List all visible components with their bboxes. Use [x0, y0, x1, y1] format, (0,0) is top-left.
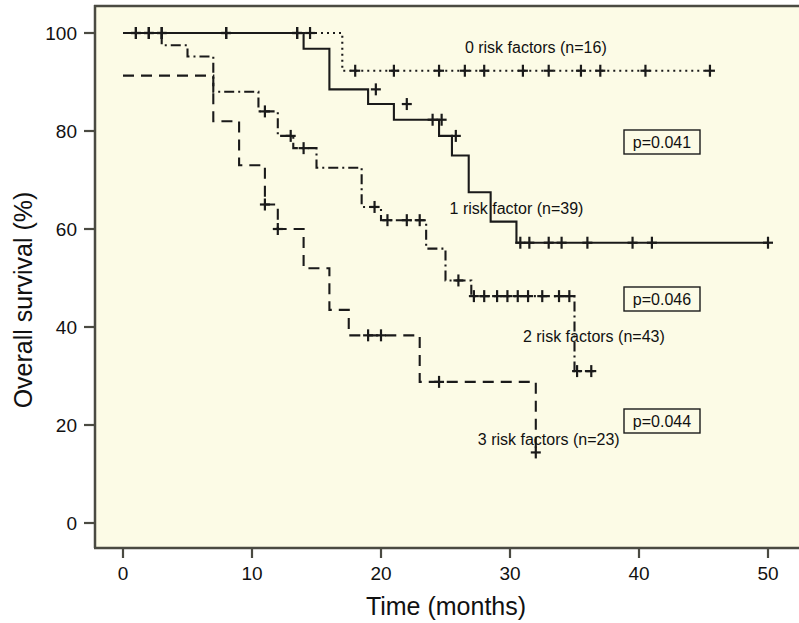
y-tick-label: 100 — [45, 23, 77, 44]
y-tick-label: 80 — [56, 121, 77, 142]
kaplan-meier-chart: 020406080100 01020304050 0 risk factors … — [0, 0, 799, 623]
x-tick-label: 40 — [628, 563, 649, 584]
y-axis-title: Overall survival (%) — [9, 192, 37, 409]
p-value-text: p=0.044 — [633, 413, 691, 430]
x-tick-label: 50 — [757, 563, 778, 584]
x-tick-label: 30 — [499, 563, 520, 584]
p-value-text: p=0.041 — [633, 134, 691, 151]
series-label-3: 3 risk factors (n=23) — [478, 431, 620, 448]
x-axis-title: Time (months) — [366, 592, 526, 620]
x-tick-label: 20 — [370, 563, 391, 584]
series-label-2: 2 risk factors (n=43) — [523, 328, 665, 345]
p-value-box-0: p=0.041 — [624, 130, 700, 154]
series-label-0: 0 risk factors (n=16) — [465, 39, 607, 56]
x-tick-label: 0 — [118, 563, 129, 584]
survival-chart-figure: 020406080100 01020304050 0 risk factors … — [0, 0, 799, 623]
y-tick-label: 20 — [56, 415, 77, 436]
p-value-text: p=0.046 — [633, 291, 691, 308]
p-value-box-1: p=0.046 — [624, 287, 700, 311]
y-tick-label: 40 — [56, 317, 77, 338]
x-tick-label: 10 — [241, 563, 262, 584]
p-value-box-2: p=0.044 — [624, 409, 700, 433]
y-tick-label: 0 — [66, 513, 77, 534]
y-tick-label: 60 — [56, 219, 77, 240]
series-label-1: 1 risk factor (n=39) — [450, 200, 584, 217]
